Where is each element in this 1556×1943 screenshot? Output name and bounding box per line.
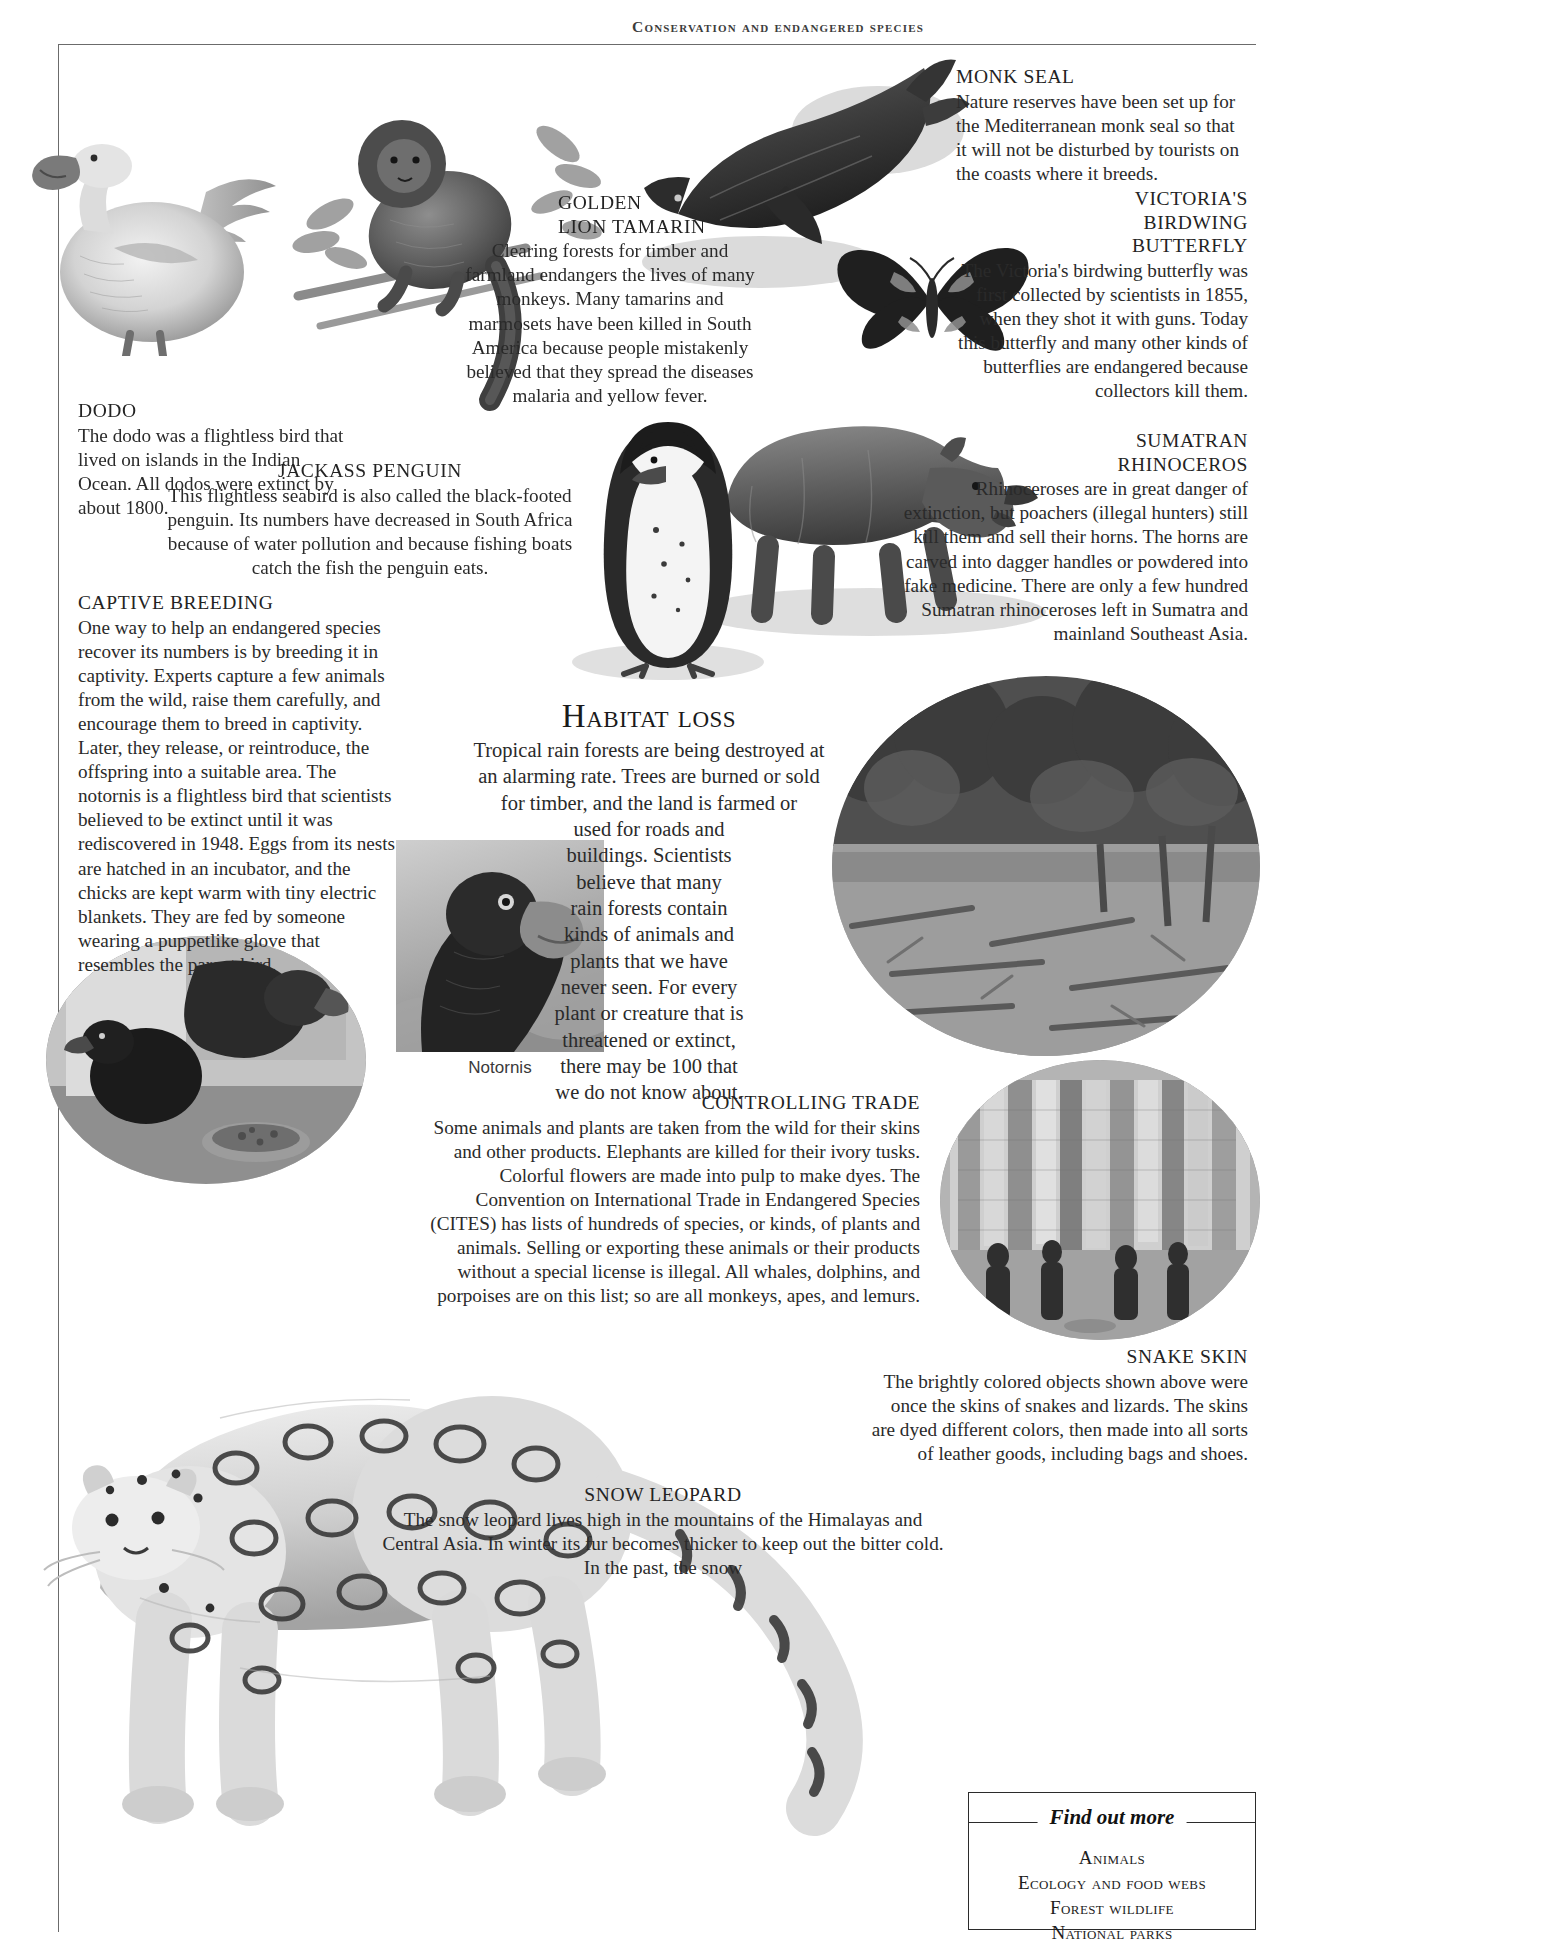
habitat-loss-heading: Habitat loss xyxy=(432,700,866,733)
jackass-penguin-heading: JACKASS PENGUIN xyxy=(150,460,590,483)
habitat-loss-line: plants that we have xyxy=(432,948,866,974)
section-victorias-birdwing: VICTORIA'S BIRDWING BUTTERFLY The Victor… xyxy=(948,188,1248,403)
snake-skin-heading: SNAKE SKIN xyxy=(868,1346,1248,1369)
controlling-trade-body: Some animals and plants are taken from t… xyxy=(412,1116,920,1309)
section-golden-lion-tamarin: GOLDEN LION TAMARIN Clearing forests for… xyxy=(460,192,760,408)
habitat-loss-line: an alarming rate. Trees are burned or so… xyxy=(432,763,866,789)
find-out-more-item[interactable]: Forest wildlife xyxy=(969,1895,1255,1920)
find-out-more-item[interactable]: Animals xyxy=(969,1845,1255,1870)
habitat-loss-line: buildings. Scientists xyxy=(432,842,866,868)
jackass-penguin-body: This flightless seabird is also called t… xyxy=(150,484,590,580)
section-controlling-trade: CONTROLLING TRADE Some animals and plant… xyxy=(412,1092,920,1308)
section-habitat-loss: Habitat loss Tropical rain forests are b… xyxy=(432,700,866,1106)
snow-leopard-body: The snow leopard lives high in the mount… xyxy=(380,1508,946,1580)
habitat-loss-line: kinds of animals and xyxy=(432,921,866,947)
habitat-loss-line: rain forests contain xyxy=(432,895,866,921)
golden-lion-tamarin-heading-line2: LION TAMARIN xyxy=(460,216,760,239)
monk-seal-body: Nature reserves have been set up for the… xyxy=(956,90,1248,186)
victorias-birdwing-heading-line3: BUTTERFLY xyxy=(948,235,1248,258)
habitat-loss-body: Tropical rain forests are being destroye… xyxy=(432,737,866,1106)
page-rule-left xyxy=(58,44,59,1932)
jackass-penguin-illustration xyxy=(560,404,780,684)
victorias-birdwing-heading-line2: BIRDWING xyxy=(948,212,1248,235)
find-out-more-box: Find out more Animals Ecology and food w… xyxy=(968,1792,1256,1930)
running-head: Conservation and endangered species xyxy=(0,18,1556,36)
find-out-more-header: Find out more xyxy=(969,1805,1255,1839)
page-rule-top xyxy=(58,44,1256,45)
golden-lion-tamarin-heading-line1: GOLDEN xyxy=(460,192,760,215)
snake-skin-body: The brightly colored objects shown above… xyxy=(868,1370,1248,1466)
find-out-more-item[interactable]: National parks xyxy=(969,1920,1255,1943)
sumatran-rhinoceros-heading-line2: RHINOCEROS xyxy=(900,454,1248,477)
dyed-snake-skins-market-photograph xyxy=(940,1060,1260,1340)
find-out-more-list: Animals Ecology and food webs Forest wil… xyxy=(969,1845,1255,1943)
captive-breeding-heading: CAPTIVE BREEDING xyxy=(78,592,396,615)
section-snow-leopard: SNOW LEOPARD The snow leopard lives high… xyxy=(380,1484,946,1580)
habitat-loss-line: used for roads and xyxy=(432,816,866,842)
cleared-rainforest-photograph xyxy=(832,676,1260,1056)
controlling-trade-heading: CONTROLLING TRADE xyxy=(412,1092,920,1115)
section-sumatran-rhinoceros: SUMATRAN RHINOCEROS Rhinoceroses are in … xyxy=(900,430,1248,646)
habitat-loss-line: for timber, and the land is farmed or xyxy=(432,790,866,816)
sumatran-rhinoceros-heading-line1: SUMATRAN xyxy=(900,430,1248,453)
captive-breeding-body: One way to help an endangered species re… xyxy=(78,616,396,977)
find-out-more-title: Find out more xyxy=(1038,1805,1187,1830)
monk-seal-heading: MONK SEAL xyxy=(956,66,1248,89)
dodo-illustration xyxy=(10,96,310,356)
habitat-loss-line: plant or creature that is xyxy=(432,1000,866,1026)
golden-lion-tamarin-body: Clearing forests for timber and farmland… xyxy=(460,239,760,408)
section-monk-seal: MONK SEAL Nature reserves have been set … xyxy=(956,66,1248,186)
section-captive-breeding: CAPTIVE BREEDING One way to help an enda… xyxy=(78,592,396,977)
victorias-birdwing-heading-line1: VICTORIA'S xyxy=(948,188,1248,211)
victorias-birdwing-body: The Victoria's birdwing butterfly was fi… xyxy=(948,259,1248,404)
habitat-loss-line: there may be 100 that xyxy=(432,1053,866,1079)
sumatran-rhinoceros-body: Rhinoceroses are in great danger of exti… xyxy=(900,477,1248,646)
habitat-loss-line: Tropical rain forests are being destroye… xyxy=(432,737,866,763)
find-out-more-item[interactable]: Ecology and food webs xyxy=(969,1870,1255,1895)
habitat-loss-line: threatened or extinct, xyxy=(432,1027,866,1053)
habitat-loss-line: never seen. For every xyxy=(432,974,866,1000)
habitat-loss-line: believe that many xyxy=(432,869,866,895)
snow-leopard-heading: SNOW LEOPARD xyxy=(380,1484,946,1507)
section-jackass-penguin: JACKASS PENGUIN This flightless seabird … xyxy=(150,460,590,580)
dodo-heading: DODO xyxy=(78,400,346,423)
section-snake-skin: SNAKE SKIN The brightly colored objects … xyxy=(868,1346,1248,1466)
